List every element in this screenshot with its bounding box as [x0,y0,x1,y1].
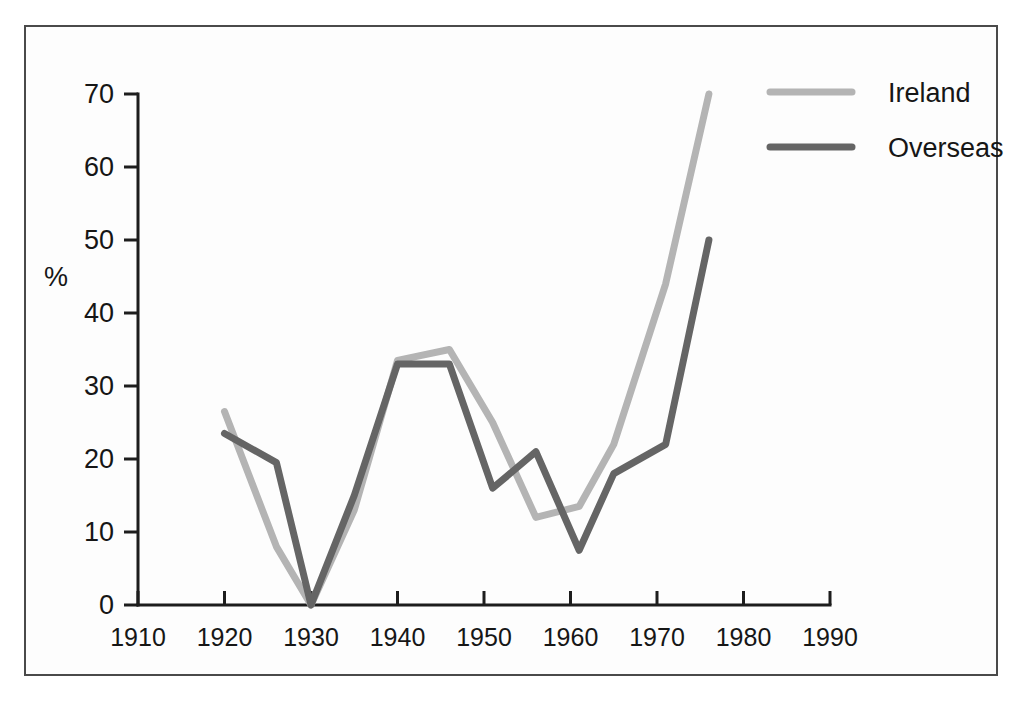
y-tick-label: 30 [84,371,114,401]
y-tick-label: 60 [84,152,114,182]
x-tick-label: 1940 [370,623,426,651]
y-axis-ticks [124,94,138,605]
x-tick-label: 1990 [802,623,858,651]
y-tick-label: 20 [84,444,114,474]
series-line-ireland [225,94,709,605]
x-tick-label: 1950 [456,623,512,651]
x-axis-ticks [138,591,830,605]
x-axis-tick-labels: 191019201930194019501960197019801990 [110,623,858,651]
series-line-overseas [225,240,709,605]
legend-label-ireland: Ireland [888,78,971,108]
x-tick-label: 1980 [716,623,772,651]
y-tick-label: 50 [84,225,114,255]
y-tick-label: 70 [84,79,114,109]
x-tick-label: 1930 [283,623,339,651]
x-tick-label: 1960 [543,623,599,651]
x-tick-label: 1910 [110,623,166,651]
y-axis-title: % [44,262,68,292]
legend-label-overseas: Overseas [888,133,1004,163]
x-tick-label: 1970 [629,623,685,651]
y-tick-label: 0 [99,590,114,620]
data-series-group [225,94,709,605]
y-axis-tick-labels: 010203040506070 [84,79,114,620]
line-chart-plot: 010203040506070 191019201930194019501960… [0,0,1022,701]
x-tick-label: 1920 [197,623,253,651]
chart-figure: 010203040506070 191019201930194019501960… [0,0,1022,701]
y-tick-label: 10 [84,517,114,547]
y-tick-label: 40 [84,298,114,328]
chart-legend: IrelandOverseas [770,78,1004,163]
